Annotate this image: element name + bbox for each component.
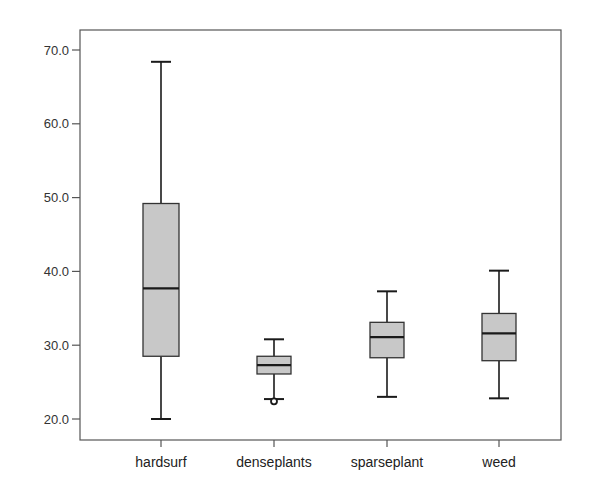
- x-category-label: denseplants: [236, 454, 312, 470]
- x-category-label: hardsurf: [135, 454, 186, 470]
- boxplot-chart: 20.030.040.050.060.070.0 hardsurfdensepl…: [0, 0, 607, 497]
- y-tick-label: 70.0: [44, 43, 69, 58]
- y-tick-label: 50.0: [44, 190, 69, 205]
- y-tick-label: 40.0: [44, 264, 69, 279]
- x-category-label: weed: [481, 454, 515, 470]
- y-tick-label: 20.0: [44, 412, 69, 427]
- outlier-marker: [271, 398, 277, 404]
- x-category-label: sparseplant: [351, 454, 423, 470]
- iqr-box: [143, 204, 179, 357]
- y-tick-label: 60.0: [44, 116, 69, 131]
- y-tick-label: 30.0: [44, 338, 69, 353]
- iqr-box: [370, 322, 404, 357]
- x-axis: hardsurfdenseplantssparseplantweed: [135, 440, 515, 470]
- iqr-box: [482, 313, 516, 360]
- y-axis: 20.030.040.050.060.070.0: [44, 43, 80, 427]
